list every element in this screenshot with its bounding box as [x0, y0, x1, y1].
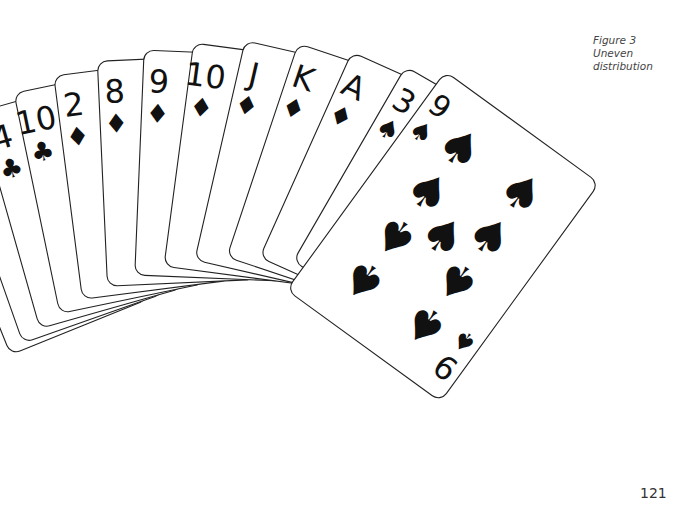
page-number: 121 [640, 485, 667, 501]
diamonds-icon: ♦ [64, 120, 91, 153]
card-fan-illustration: 3♥3♥J♥J♥4♣4♣10♣10♣2♦2♦8♦8♦9♦9♦10♦10♦J♦J♦… [0, 0, 692, 513]
card-rank: 8 [104, 72, 126, 111]
figure-description: Uneven distribution [593, 47, 692, 73]
card-rank: 9 [148, 62, 170, 101]
card-rank: 10 [12, 98, 60, 143]
diamonds-icon: ♦ [145, 98, 170, 129]
card-rank: 10 [183, 54, 228, 97]
diamonds-icon: ♦ [188, 91, 215, 124]
figure-caption: Figure 3 Uneven distribution [593, 34, 692, 73]
diamonds-icon: ♦ [104, 108, 129, 139]
figure-label: Figure 3 [593, 34, 692, 47]
